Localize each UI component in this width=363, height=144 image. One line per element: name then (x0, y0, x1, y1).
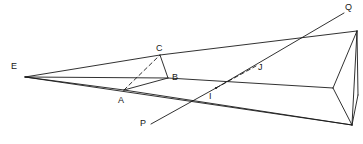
point-label-p: P (140, 119, 146, 128)
edge-R2-R3 (333, 88, 352, 125)
solid-lines-group (25, 13, 358, 125)
point-label-q: Q (345, 3, 352, 12)
point-label-a: A (118, 96, 124, 105)
edge-C-B (160, 55, 168, 78)
edge-E-B-R2 (25, 77, 333, 88)
edge-R1-R4 (357, 31, 358, 95)
diagram-vector-layer (0, 0, 363, 144)
point-label-j: J (258, 63, 263, 72)
point-label-e: E (11, 62, 17, 71)
vertex-dot-i (215, 87, 217, 89)
point-label-c: C (156, 44, 163, 53)
edge-P-I (151, 88, 216, 124)
dashed-I-J (216, 66, 256, 88)
point-label-i: I (209, 92, 212, 101)
edge-E-C-R1 (25, 31, 357, 77)
point-label-b: B (172, 73, 178, 82)
edge-I-Q (216, 13, 344, 88)
edge-R1-R2 (333, 31, 357, 88)
vertex-dots-group (215, 87, 217, 89)
geometric-diagram-canvas: ECBAIJPQ (0, 0, 363, 144)
